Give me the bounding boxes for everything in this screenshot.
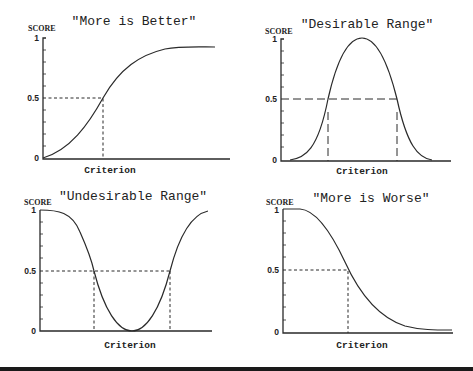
y-tick-0.5: 0.5 [267, 265, 279, 275]
y-tick-1: 1 [31, 205, 36, 215]
x-axis-label: Criterion [104, 340, 156, 351]
y-tick-1: 1 [272, 34, 277, 44]
y-tick-1: 1 [274, 205, 279, 215]
panel-more-is-worse: "More is Worse" SCORE 1 0.5 0 Criterion [266, 191, 453, 351]
panel-desirable-range: "Desirable Range" SCORE 1 0.5 0 Criterio… [265, 17, 451, 177]
panel-title: "Undesirable Range" [59, 189, 207, 204]
half-score-guide [43, 98, 103, 159]
panel-title: "Desirable Range" [301, 17, 434, 32]
y-tick-0: 0 [272, 155, 277, 165]
panel-title: "More is Worse" [312, 191, 429, 206]
y-tick-0: 0 [31, 326, 36, 336]
axes [283, 209, 453, 333]
axes [281, 39, 451, 161]
y-axis-label: SCORE [28, 24, 56, 33]
half-score-guide [283, 270, 348, 333]
utility-curves-figure: "More is Better" SCORE 1 0.5 0 Criterion… [0, 0, 473, 371]
y-tick-0: 0 [34, 153, 39, 163]
y-axis-label: SCORE [24, 198, 52, 207]
y-axis-label: SCORE [266, 198, 294, 207]
utility-curve [43, 47, 215, 158]
panel-title: "More is Better" [72, 14, 197, 29]
utility-curve [283, 209, 452, 330]
y-tick-0.5: 0.5 [265, 94, 277, 104]
panel-undesirable-range: "Undesirable Range" SCORE 1 0.5 0 Criter… [24, 189, 212, 351]
y-axis-label: SCORE [265, 27, 293, 36]
y-tick-0.5: 0.5 [27, 93, 39, 103]
y-tick-0.5: 0.5 [24, 266, 36, 276]
panel-more-is-better: "More is Better" SCORE 1 0.5 0 Criterion [27, 14, 230, 176]
x-axis-label: Criterion [84, 165, 136, 176]
y-tick-0: 0 [274, 327, 279, 337]
bottom-border-bar [0, 367, 473, 371]
y-tick-1: 1 [34, 33, 39, 43]
x-axis-label: Criterion [336, 340, 388, 351]
x-axis-label: Criterion [336, 166, 388, 177]
